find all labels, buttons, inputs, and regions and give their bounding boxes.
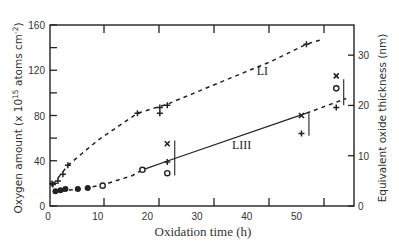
- open-circle-marker: [165, 171, 170, 176]
- x-marker: [165, 141, 170, 146]
- filled-circle-marker: [62, 186, 68, 192]
- x-tick-label: 0: [45, 211, 51, 222]
- y2-tick-label: 30: [358, 50, 370, 61]
- x-axis-ticks: 01020304050: [45, 25, 324, 222]
- x-tick-label: 50: [291, 211, 303, 222]
- y-tick-label: 80: [34, 111, 46, 122]
- x-tick-label: 20: [142, 211, 154, 222]
- series-label-LIII: LIII: [232, 138, 251, 152]
- LIII-dashed-tail: [306, 99, 346, 114]
- filled-circle-marker: [85, 185, 91, 191]
- open-circle-marker: [100, 183, 105, 188]
- y-axis-title: Oxygen amount (x 1015 atoms cm-2): [11, 22, 24, 213]
- LI-plus-marker: [134, 110, 140, 116]
- x-tick-label: 40: [241, 211, 253, 222]
- y2-tick-label: 10: [358, 151, 370, 162]
- y2-axis-ticks: 0102030: [348, 50, 370, 212]
- y-tick-label: 0: [39, 201, 45, 212]
- x-marker: [334, 73, 339, 78]
- filled-circle-marker: [75, 186, 81, 192]
- filled-circle-marker: [52, 188, 58, 194]
- LIII-plus-marker: [333, 105, 339, 111]
- LI-curve: [53, 40, 321, 185]
- y-tick-label: 120: [28, 65, 45, 76]
- series-layer: [49, 40, 346, 195]
- LI-plus-marker: [60, 171, 66, 177]
- y2-axis-title: Equivalent oxide thickness (nm): [376, 34, 388, 203]
- LIII-plus-marker: [298, 131, 304, 137]
- x-tick-label: 30: [192, 211, 204, 222]
- y2-tick-label: 0: [358, 201, 364, 212]
- y-tick-label: 40: [34, 156, 46, 167]
- oxidation-chart: 01020304050 04080120160 0102030 Oxidatio…: [0, 0, 399, 248]
- x-axis-title: Oxidation time (h): [155, 224, 252, 239]
- y2-tick-label: 20: [358, 100, 370, 111]
- open-circle-marker: [334, 86, 339, 91]
- x-tick-label: 10: [92, 211, 104, 222]
- open-circle-marker: [140, 167, 145, 172]
- y-tick-label: 160: [28, 20, 45, 31]
- series-label-LI: LI: [257, 64, 268, 78]
- LI-plus-marker: [303, 41, 309, 47]
- LI-plus-marker: [157, 110, 163, 116]
- filled-circle-marker: [57, 187, 63, 193]
